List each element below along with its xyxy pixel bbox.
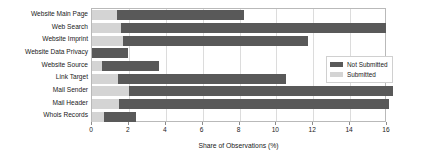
bar-row xyxy=(92,34,385,47)
y-axis-label: Website Source xyxy=(2,59,88,72)
x-tick-label: 0 xyxy=(89,126,93,134)
x-tick-label: 8 xyxy=(237,126,241,134)
bar-row xyxy=(92,98,385,111)
bar-segment-submitted xyxy=(92,61,102,71)
bar-segment-submitted xyxy=(92,99,119,109)
x-tick-mark xyxy=(386,122,387,125)
bar-segment-not-submitted xyxy=(92,48,128,58)
legend-label: Not Submitted xyxy=(347,61,388,69)
bar-row xyxy=(92,85,385,98)
y-axis-category-labels: Website Main PageWeb SearchWebsite Impri… xyxy=(0,8,88,122)
x-tick-label: 12 xyxy=(309,126,316,134)
bar-segment-submitted xyxy=(92,23,121,33)
y-axis-label: Mail Sender xyxy=(2,84,88,97)
bar-chart: Website Main PageWeb SearchWebsite Impri… xyxy=(0,0,422,156)
x-tick-label: 16 xyxy=(382,126,389,134)
x-tick-label: 6 xyxy=(200,126,204,134)
bar-segment-not-submitted xyxy=(129,86,393,96)
legend-item: Not Submitted xyxy=(330,60,388,69)
y-axis-label: Link Target xyxy=(2,71,88,84)
legend-item: Submitted xyxy=(330,70,388,79)
bar-segment-not-submitted xyxy=(123,36,307,46)
x-tick-label: 2 xyxy=(126,126,130,134)
x-tick-mark xyxy=(202,122,203,125)
bar-segment-submitted xyxy=(92,36,123,46)
x-tick-mark xyxy=(128,122,129,125)
x-tick-mark xyxy=(312,122,313,125)
y-axis-label: Website Main Page xyxy=(2,8,88,21)
bar-segment-not-submitted xyxy=(102,61,159,71)
y-axis-label: Whois Records xyxy=(2,109,88,122)
bar-segment-not-submitted xyxy=(117,10,244,20)
x-tick-mark xyxy=(275,122,276,125)
bar-segment-not-submitted xyxy=(118,74,286,84)
legend-swatch xyxy=(330,72,343,77)
legend-label: Submitted xyxy=(347,71,376,79)
bar-segment-submitted xyxy=(92,112,104,122)
x-tick-label: 4 xyxy=(163,126,167,134)
x-tick-mark xyxy=(165,122,166,125)
y-axis-label: Website Imprint xyxy=(2,33,88,46)
x-tick-label: 10 xyxy=(272,126,279,134)
x-axis-ticks: 0246810121416 xyxy=(91,122,386,136)
legend-swatch xyxy=(330,62,343,67)
x-tick-mark xyxy=(349,122,350,125)
y-axis-label: Website Data Privacy xyxy=(2,46,88,59)
bar-row xyxy=(92,22,385,35)
x-tick-mark xyxy=(239,122,240,125)
x-tick-label: 14 xyxy=(345,126,352,134)
bar-segment-not-submitted xyxy=(119,99,389,109)
y-axis-label: Web Search xyxy=(2,21,88,34)
bar-segment-not-submitted xyxy=(121,23,387,33)
chart-legend: Not SubmittedSubmitted xyxy=(326,56,393,83)
bar-segment-submitted xyxy=(92,86,129,96)
bar-segment-submitted xyxy=(92,10,117,20)
x-tick-mark xyxy=(91,122,92,125)
bar-segment-not-submitted xyxy=(104,112,136,122)
bar-row xyxy=(92,9,385,22)
x-axis-title: Share of Observations (%) xyxy=(91,141,386,150)
bar-segment-submitted xyxy=(92,74,118,84)
y-axis-label: Mail Header xyxy=(2,97,88,110)
